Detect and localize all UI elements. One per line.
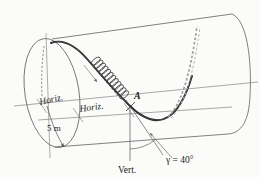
label-horiz-left: Horiz. — [37, 92, 64, 107]
tangent-line-at-a — [126, 100, 163, 155]
point-a-marker — [126, 102, 135, 111]
label-horiz-right: Horiz. — [78, 101, 104, 114]
figure-canvas: Horiz. Horiz. 5 m A Vert. γ = 40° — [0, 0, 260, 177]
helix-highlight — [51, 42, 192, 121]
helix-curve — [51, 42, 192, 121]
diagram-svg: Horiz. Horiz. 5 m A Vert. γ = 40° — [0, 0, 260, 177]
cylinder-bottom-edge — [55, 134, 228, 147]
helix-main-path — [51, 42, 192, 121]
label-point-a: A — [133, 90, 141, 101]
left-end-ellipse — [17, 34, 88, 151]
cylinder-right-cap — [228, 14, 250, 134]
helix-hidden-continuation — [168, 26, 200, 118]
helix-hidden-continuation-left — [42, 46, 44, 96]
label-vert: Vert. — [118, 165, 136, 175]
cylinder-top-edge — [52, 14, 232, 39]
label-angle-gamma: γ = 40° — [165, 155, 194, 165]
label-radius-5m: 5 m — [47, 123, 61, 133]
